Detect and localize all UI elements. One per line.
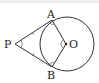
label-a: A [46,8,56,21]
tangent-circle-diagram: P A B O [0,0,99,83]
label-p: P [4,38,12,51]
angle-arc-o [61,40,63,48]
label-b: B [47,69,55,82]
radius-ob [52,44,66,67]
tangent-pa [15,20,52,44]
angle-arc-p [21,40,22,48]
label-o: O [69,38,78,51]
tangent-pb [15,44,52,67]
radius-oa [52,20,66,44]
center-point-o [65,43,68,46]
